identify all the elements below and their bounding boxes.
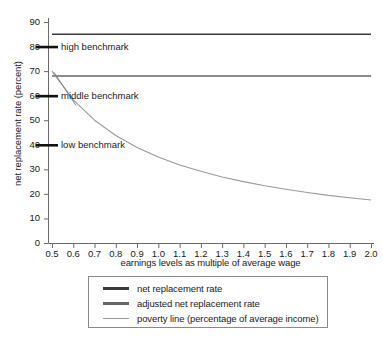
y-tick-label: 50 <box>18 115 40 125</box>
benchmark-label-1: middle benchmark <box>61 91 139 101</box>
legend-label-0: net replacement rate <box>137 283 222 294</box>
legend-swatch-0 <box>103 287 129 289</box>
chart-legend: net replacement rateadjusted net replace… <box>88 276 328 328</box>
y-tick-label: 60 <box>18 91 40 101</box>
x-tick-label: 2.0 <box>359 249 383 259</box>
legend-swatch-2 <box>103 318 129 320</box>
y-tick-label: 40 <box>18 140 40 150</box>
y-tick-label: 30 <box>18 164 40 174</box>
y-axis-ticks <box>44 23 49 244</box>
y-tick-label: 70 <box>18 66 40 76</box>
legend-entry-0[interactable]: net replacement rate <box>89 281 327 296</box>
y-tick-label: 0 <box>18 238 40 248</box>
data-series <box>52 34 371 200</box>
y-tick-label: 80 <box>18 42 40 52</box>
chart-figure: net replacement rate (percent) earnings … <box>0 0 383 341</box>
legend-swatch-1 <box>103 302 129 304</box>
benchmark-label-0: high benchmark <box>61 42 129 52</box>
legend-entry-1[interactable]: adjusted net replacement rate <box>89 296 327 311</box>
y-tick-label: 10 <box>18 213 40 223</box>
axis-lines <box>49 18 375 244</box>
y-tick-label: 90 <box>18 17 40 27</box>
benchmark-label-2: low benchmark <box>61 140 125 150</box>
legend-label-2: poverty line (percentage of average inco… <box>137 313 319 324</box>
y-tick-label: 20 <box>18 189 40 199</box>
legend-entry-2[interactable]: poverty line (percentage of average inco… <box>89 311 327 326</box>
legend-label-1: adjusted net replacement rate <box>137 298 260 309</box>
